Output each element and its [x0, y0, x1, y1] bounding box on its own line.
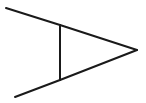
diagram-canvas — [0, 0, 146, 103]
top-leg-line — [6, 8, 60, 25]
triangle-symbol-icon — [0, 0, 146, 103]
top-edge-line — [60, 25, 137, 50]
bottom-leg-line — [15, 80, 60, 97]
bottom-edge-line — [60, 50, 137, 80]
